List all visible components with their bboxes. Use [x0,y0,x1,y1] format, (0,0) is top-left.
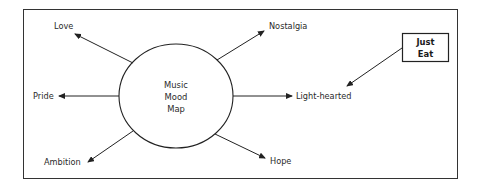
center-label-line-2: Mood [165,92,188,102]
brand-label-line-2: Eat [418,49,433,59]
mood-label-ambition: Ambition [44,157,81,167]
brand-label-line-1: Just [415,37,434,47]
mood-label-light-hearted: Light-hearted [296,91,351,101]
mood-label-nostalgia: Nostalgia [269,21,307,31]
mood-label-hope: Hope [270,156,291,166]
diagram-frame [24,10,458,179]
center-node: Music Mood Map [119,44,233,148]
music-mood-map-diagram: Music Mood Map Love Nostalgia Pride Ligh… [0,0,480,190]
mood-label-love: Love [54,21,73,31]
mood-label-pride: Pride [33,91,54,101]
center-label-line-1: Music [164,80,188,90]
center-label-line-3: Map [167,104,185,114]
